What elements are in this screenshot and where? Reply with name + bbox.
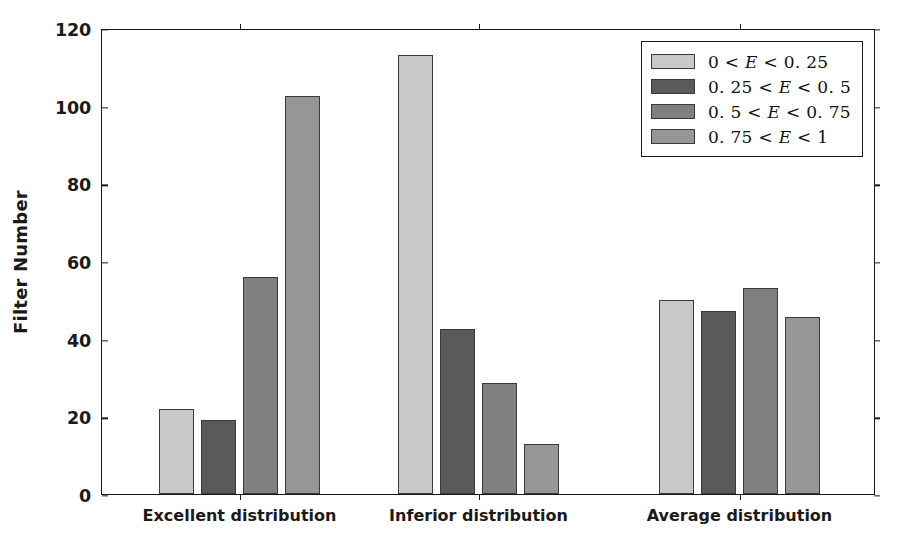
- bar[interactable]: [201, 420, 236, 494]
- y-tick-mark-right: [874, 495, 880, 496]
- y-axis-label: Filter Number: [10, 190, 31, 334]
- legend: 0 < E < 0. 250. 25 < E < 0. 50. 5 < E < …: [641, 41, 863, 157]
- y-tick-100: 100: [55, 98, 102, 118]
- x-tick-label: Inferior distribution: [389, 506, 568, 525]
- legend-label: 0. 25 < E < 0. 5: [708, 77, 851, 97]
- x-tick-label: Average distribution: [647, 506, 833, 525]
- y-tick-mark: [102, 107, 108, 108]
- y-tick-120: 120: [55, 20, 102, 40]
- legend-label: 0. 75 < E < 1: [708, 127, 829, 147]
- legend-swatch: [651, 129, 695, 144]
- bar[interactable]: [743, 288, 778, 494]
- y-tick-mark-right: [874, 262, 880, 263]
- bar[interactable]: [524, 444, 559, 494]
- y-tick-20: 20: [67, 408, 102, 428]
- x-tick-mark: [740, 494, 741, 500]
- legend-swatch: [651, 54, 695, 69]
- y-tick-40: 40: [67, 331, 102, 351]
- x-tick-mark-top: [479, 24, 480, 30]
- x-tick-mark-top: [240, 24, 241, 30]
- y-tick-mark: [102, 262, 108, 263]
- legend-swatch: [651, 79, 695, 94]
- y-tick-60: 60: [67, 253, 102, 273]
- bar-chart-figure: Filter Number 020406080100120 Excellent …: [0, 0, 916, 542]
- y-tick-label: 0: [79, 486, 102, 506]
- y-tick-mark-right: [874, 107, 880, 108]
- bar[interactable]: [659, 300, 694, 494]
- plot-area: 020406080100120 Excellent distributionIn…: [101, 29, 875, 495]
- bar[interactable]: [482, 383, 517, 494]
- y-tick-mark: [102, 495, 108, 496]
- x-tick-label: Excellent distribution: [143, 506, 337, 525]
- bar-group: [159, 30, 320, 494]
- legend-label: 0. 5 < E < 0. 75: [708, 102, 851, 122]
- y-tick-label: 40: [67, 331, 102, 351]
- y-tick-label: 80: [67, 175, 102, 195]
- legend-item[interactable]: 0 < E < 0. 25: [651, 49, 851, 74]
- legend-item[interactable]: 0. 25 < E < 0. 5: [651, 74, 851, 99]
- y-tick-mark: [102, 418, 108, 419]
- y-tick-mark-right: [874, 340, 880, 341]
- y-tick-mark-right: [874, 29, 880, 30]
- bar[interactable]: [159, 409, 194, 494]
- legend-label: 0 < E < 0. 25: [708, 52, 829, 72]
- y-tick-label: 100: [55, 98, 102, 118]
- bar[interactable]: [285, 96, 320, 494]
- y-tick-mark-right: [874, 418, 880, 419]
- y-tick-mark: [102, 340, 108, 341]
- y-tick-label: 120: [55, 20, 102, 40]
- y-tick-mark-right: [874, 185, 880, 186]
- y-tick-0: 0: [79, 486, 102, 506]
- bar[interactable]: [701, 311, 736, 494]
- legend-item[interactable]: 0. 75 < E < 1: [651, 124, 851, 149]
- bar[interactable]: [398, 55, 433, 494]
- bar[interactable]: [440, 329, 475, 494]
- bar[interactable]: [243, 277, 278, 494]
- bar-group: [398, 30, 559, 494]
- x-tick-mark: [240, 494, 241, 500]
- legend-swatch: [651, 104, 695, 119]
- y-tick-mark: [102, 29, 108, 30]
- bar[interactable]: [785, 317, 820, 494]
- y-tick-mark: [102, 185, 108, 186]
- y-tick-label: 60: [67, 253, 102, 273]
- x-tick-mark: [479, 494, 480, 500]
- x-tick-mark-top: [740, 24, 741, 30]
- y-tick-80: 80: [67, 175, 102, 195]
- y-tick-label: 20: [67, 408, 102, 428]
- legend-item[interactable]: 0. 5 < E < 0. 75: [651, 99, 851, 124]
